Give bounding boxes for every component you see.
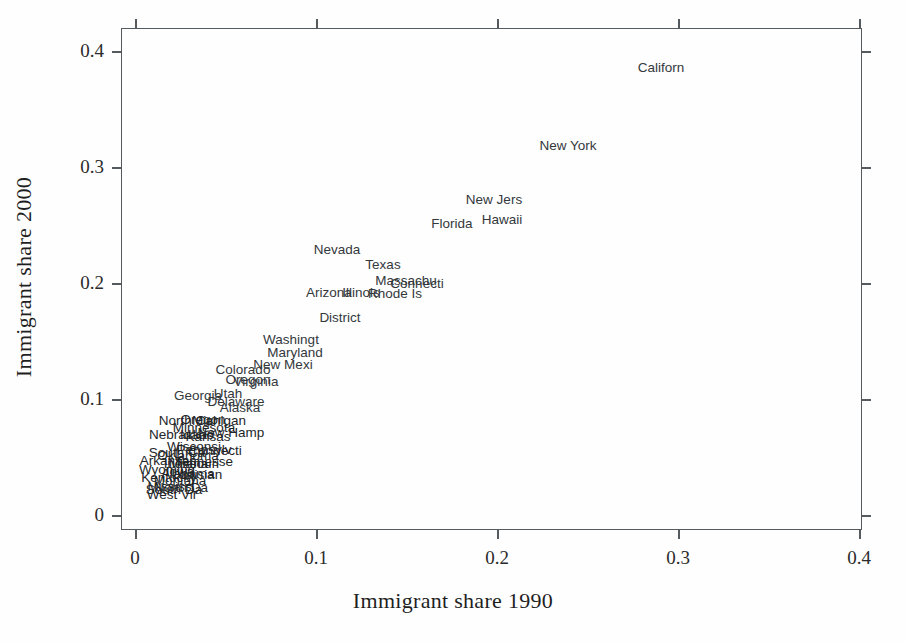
- point-label-arizona: Arizona: [306, 286, 352, 300]
- y-tick-mark: [112, 167, 121, 169]
- x-tick-label: 0.3: [666, 547, 690, 569]
- x-tick-mark: [859, 530, 861, 539]
- scatter-plot-figure: 00.10.20.30.400.10.20.30.4 CalifornNew Y…: [0, 0, 906, 643]
- y-tick-label: 0: [0, 504, 104, 526]
- x-tick-label: 0: [130, 547, 140, 569]
- y-tick-mark-right: [862, 399, 871, 401]
- point-label-florida: Florida: [431, 217, 472, 231]
- x-tick-label: 0.1: [304, 547, 328, 569]
- y-tick-label: 0.4: [0, 40, 104, 62]
- x-tick-mark: [497, 530, 499, 539]
- point-label-californ: Californ: [638, 61, 685, 75]
- x-tick-label: 0.4: [847, 547, 871, 569]
- point-label-hawaii: Hawaii: [482, 213, 523, 227]
- point-label-district: District: [319, 311, 360, 325]
- y-tick-mark-right: [862, 167, 871, 169]
- point-label-texas: Texas: [365, 258, 400, 272]
- y-tick-mark-right: [862, 283, 871, 285]
- point-label-new-york: New York: [539, 139, 596, 153]
- point-label-new-jers: New Jers: [466, 193, 522, 207]
- point-label-west-vir: West Vir: [147, 488, 198, 502]
- point-label-nevada: Nevada: [314, 243, 361, 257]
- y-tick-mark-right: [862, 515, 871, 517]
- x-axis-title: Immigrant share 1990: [0, 588, 906, 614]
- y-tick-mark: [112, 515, 121, 517]
- y-tick-mark: [112, 51, 121, 53]
- y-tick-mark: [112, 283, 121, 285]
- x-tick-label: 0.2: [485, 547, 509, 569]
- x-tick-mark: [135, 530, 137, 539]
- x-tick-mark-top: [497, 19, 499, 28]
- x-tick-mark: [678, 530, 680, 539]
- y-tick-mark-right: [862, 51, 871, 53]
- y-axis-title: Immigrant share 2000: [11, 67, 37, 487]
- x-tick-mark-top: [678, 19, 680, 28]
- x-tick-mark-top: [859, 19, 861, 28]
- point-label-rhode-is: Rhode Is: [368, 287, 422, 301]
- x-tick-mark-top: [135, 19, 137, 28]
- x-tick-mark: [316, 530, 318, 539]
- y-tick-mark: [112, 399, 121, 401]
- x-tick-mark-top: [316, 19, 318, 28]
